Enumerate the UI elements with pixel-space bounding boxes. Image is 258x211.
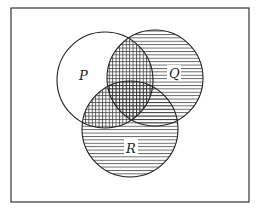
label-r: R [125,141,136,156]
venn-diagram: P Q R [0,0,258,211]
label-q: Q [169,66,180,81]
label-p: P [78,68,88,83]
